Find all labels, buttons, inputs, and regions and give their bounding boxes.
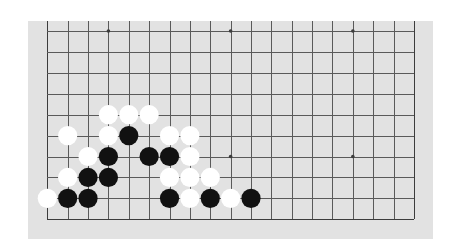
black-stone[interactable] — [160, 189, 179, 208]
white-stone[interactable] — [180, 126, 199, 145]
white-stone[interactable] — [140, 105, 159, 124]
black-stone[interactable] — [58, 189, 77, 208]
white-stone[interactable] — [221, 189, 240, 208]
white-stone[interactable] — [201, 168, 220, 187]
white-stone[interactable] — [58, 168, 77, 187]
white-stone[interactable] — [160, 126, 179, 145]
white-stone[interactable] — [180, 168, 199, 187]
white-stone[interactable] — [160, 168, 179, 187]
black-stone[interactable] — [119, 126, 138, 145]
black-stone[interactable] — [241, 189, 260, 208]
black-stone[interactable] — [99, 147, 118, 166]
star-point — [107, 29, 111, 33]
star-point — [229, 155, 233, 159]
white-stone[interactable] — [38, 189, 57, 208]
white-stone[interactable] — [99, 105, 118, 124]
white-stone[interactable] — [99, 126, 118, 145]
black-stone[interactable] — [78, 168, 97, 187]
black-stone[interactable] — [201, 189, 220, 208]
star-point — [229, 29, 233, 33]
white-stone[interactable] — [180, 147, 199, 166]
white-stone[interactable] — [78, 147, 97, 166]
star-points — [107, 29, 355, 158]
white-stone[interactable] — [180, 189, 199, 208]
white-stone[interactable] — [58, 126, 77, 145]
black-stone[interactable] — [99, 168, 118, 187]
star-point — [351, 155, 355, 159]
go-board-grid[interactable] — [0, 0, 451, 248]
white-stone[interactable] — [119, 105, 138, 124]
black-stone[interactable] — [140, 147, 159, 166]
black-stone[interactable] — [160, 147, 179, 166]
star-point — [351, 29, 355, 33]
black-stone[interactable] — [78, 189, 97, 208]
